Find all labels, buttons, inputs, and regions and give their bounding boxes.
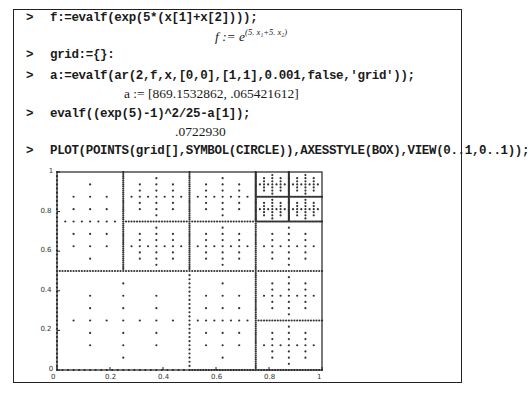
y-tick-label: 1 bbox=[49, 167, 53, 175]
plot-points bbox=[56, 171, 323, 371]
y-tick-label: 0 bbox=[49, 365, 53, 373]
x-tick-label: 1 bbox=[317, 373, 321, 381]
y-tick-label: 0.2 bbox=[40, 325, 51, 333]
x-tick-label: 0.2 bbox=[105, 373, 116, 381]
y-tick-label: 0.8 bbox=[40, 207, 51, 215]
x-tick-label: 0.6 bbox=[211, 373, 222, 381]
x-tick-label: 0 bbox=[51, 373, 55, 381]
y-tick-label: 0.6 bbox=[40, 246, 51, 254]
x-tick-label: 0.4 bbox=[158, 373, 169, 381]
x-tick-label: 0.8 bbox=[264, 373, 275, 381]
y-tick-label: 0.4 bbox=[40, 286, 51, 294]
